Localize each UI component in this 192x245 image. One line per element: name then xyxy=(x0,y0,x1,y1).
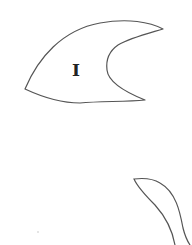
scan-speck xyxy=(37,231,39,233)
piece-2-outline xyxy=(134,178,190,245)
piece-1-label: I xyxy=(66,62,86,79)
piece-1-outline xyxy=(25,21,163,103)
diagram-svg xyxy=(0,0,192,245)
diagram-canvas: I xyxy=(0,0,192,245)
